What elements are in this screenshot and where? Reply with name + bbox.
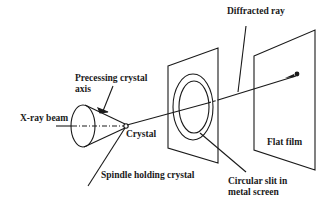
label-crystal: Crystal — [126, 129, 156, 140]
label-circular-slit-line1: Circular slit in — [228, 176, 287, 187]
label-precessing-axis-line1: Precessing crystal — [75, 73, 147, 84]
arrow-head-icon — [98, 108, 108, 113]
diffracted-ray-segment-2 — [218, 76, 296, 100]
diffracted-ray-arrow-icon — [285, 74, 295, 78]
label-flat-film: Flat film — [267, 137, 302, 148]
label-xray-beam: X-ray beam — [20, 113, 68, 124]
film-spot-icon — [295, 72, 300, 77]
flat-film — [254, 30, 315, 170]
precession-camera-diagram: Diffracted ray Precessing crystal axis X… — [0, 0, 334, 206]
label-precessing-axis-line2: axis — [75, 84, 91, 95]
cone-upper-edge — [85, 105, 125, 124]
diffracted-ray-leader — [238, 26, 246, 92]
metal-screen — [168, 48, 218, 163]
precessing-axis-leader — [103, 86, 113, 111]
label-diffracted-ray: Diffracted ray — [227, 6, 285, 17]
label-circular-slit-line2: metal screen — [228, 187, 279, 198]
label-spindle: Spindle holding crystal — [101, 170, 194, 181]
circular-slit-leader — [200, 133, 246, 172]
